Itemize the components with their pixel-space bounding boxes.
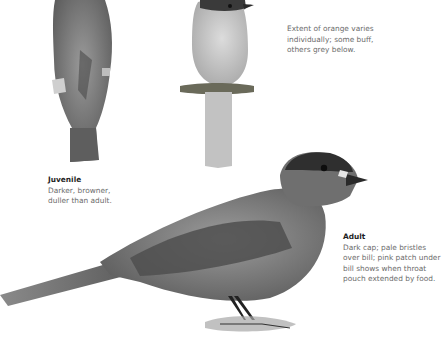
caption-adult-title: Adult xyxy=(343,232,443,243)
caption-adult: Adult Dark cap; pale bristles over bill;… xyxy=(343,232,443,285)
caption-adult-body: Dark cap; pale bristles over bill; pink … xyxy=(343,243,443,285)
juvenile-bird-illustration xyxy=(52,0,112,162)
pale-bird-illustration xyxy=(180,0,254,168)
caption-juvenile-body: Darker, browner, duller than adult. xyxy=(48,186,168,207)
caption-variation-body: Extent of orange varies individually; so… xyxy=(287,24,437,56)
caption-variation: Extent of orange varies individually; so… xyxy=(287,24,437,56)
caption-juvenile: Juvenile Darker, browner, duller than ad… xyxy=(48,175,168,207)
caption-juvenile-title: Juvenile xyxy=(48,175,168,186)
